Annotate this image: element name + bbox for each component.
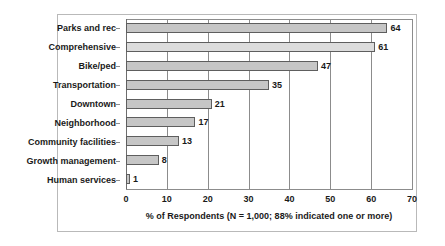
- y-axis-tickmark: [116, 104, 120, 105]
- y-axis-tickmark: [116, 66, 120, 67]
- bar-row: 35: [126, 76, 412, 95]
- x-tick-label-70: 70: [392, 193, 432, 205]
- category-label-human-services: Human services: [0, 174, 116, 186]
- bar-transportation: [126, 80, 269, 90]
- x-tick-label-60: 60: [351, 193, 391, 205]
- plot-area: 6461473521171381: [126, 19, 412, 189]
- bar-row: 1: [126, 170, 412, 189]
- bar-value-label: 8: [162, 152, 167, 168]
- bar-row: 47: [126, 57, 412, 76]
- y-axis-tickmark: [116, 123, 120, 124]
- bar-human-services: [126, 174, 130, 184]
- gridline-70: [412, 19, 413, 189]
- y-axis-tickmark: [116, 142, 120, 143]
- bar-value-label: 21: [215, 96, 225, 112]
- x-tick-label-40: 40: [269, 193, 309, 205]
- bar-chart-figure: 6461473521171381 Parks and recComprehens…: [0, 0, 445, 246]
- bar-community-facilities: [126, 136, 179, 146]
- y-axis-tickmark: [116, 47, 120, 48]
- bar-comprehensive: [126, 42, 375, 52]
- category-label-transportation: Transportation: [0, 79, 116, 91]
- category-label-parks-and-rec: Parks and rec: [0, 22, 116, 34]
- category-label-downtown: Downtown: [0, 98, 116, 110]
- x-axis-line: [126, 189, 413, 190]
- bar-parks-and-rec: [126, 23, 387, 33]
- y-axis-tickmark: [116, 180, 120, 181]
- bar-value-label: 35: [272, 77, 282, 93]
- bar-row: 21: [126, 95, 412, 114]
- bar-value-label: 17: [198, 114, 208, 130]
- y-axis-tickmark: [116, 28, 120, 29]
- y-axis-tickmark: [116, 85, 120, 86]
- x-tick-label-0: 0: [106, 193, 146, 205]
- bar-value-label: 61: [378, 39, 388, 55]
- x-tick-label-20: 20: [188, 193, 228, 205]
- x-tick-label-10: 10: [147, 193, 187, 205]
- bar-bike-ped: [126, 61, 318, 71]
- bar-value-label: 13: [182, 133, 192, 149]
- bar-downtown: [126, 99, 212, 109]
- x-axis-title: % of Respondents (N = 1,000; 88% indicat…: [126, 210, 412, 222]
- x-tick-label-30: 30: [229, 193, 269, 205]
- bar-row: 61: [126, 38, 412, 57]
- category-label-neighborhood: Neighborhood: [0, 117, 116, 129]
- x-tick-label-50: 50: [310, 193, 350, 205]
- category-label-bike-ped: Bike/ped: [0, 60, 116, 72]
- bar-growth-management: [126, 155, 159, 165]
- bar-row: 64: [126, 19, 412, 38]
- y-axis-tickmark: [116, 161, 120, 162]
- category-label-community-facilities: Community facilities: [0, 136, 116, 148]
- category-label-comprehensive: Comprehensive: [0, 41, 116, 53]
- bar-neighborhood: [126, 117, 195, 127]
- y-axis-labels: Parks and recComprehensiveBike/pedTransp…: [0, 19, 116, 189]
- bar-value-label: 47: [321, 58, 331, 74]
- bar-row: 17: [126, 113, 412, 132]
- bar-row: 13: [126, 132, 412, 151]
- bar-value-label: 64: [390, 20, 400, 36]
- category-label-growth-management: Growth management: [0, 155, 116, 167]
- bar-row: 8: [126, 151, 412, 170]
- bar-value-label: 1: [133, 171, 138, 187]
